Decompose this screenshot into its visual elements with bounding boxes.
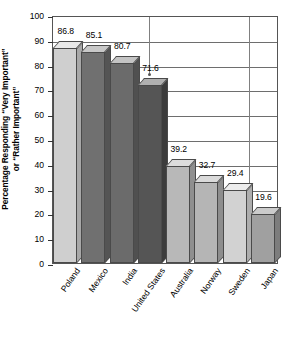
x-tick-label: Japan bbox=[258, 266, 280, 291]
bar-front-face bbox=[251, 214, 275, 263]
x-tick-label: Australia bbox=[168, 266, 195, 299]
y-tick-label: 90 bbox=[22, 36, 44, 46]
x-tick-label: Mexico bbox=[87, 266, 111, 294]
y-tick-label: 20 bbox=[22, 209, 44, 219]
x-tick-label: Sweden bbox=[226, 266, 252, 297]
y-tick-label: 70 bbox=[22, 85, 44, 95]
bar-front-face bbox=[138, 85, 162, 263]
bar-series: 86.885.180.771.639.232.729.419.6 bbox=[53, 17, 277, 263]
y-axis-title-line-1: Percentage Responding “Very Important” bbox=[0, 48, 10, 209]
plot-area: 86.885.180.771.639.232.729.419.6 bbox=[52, 16, 278, 264]
bar: 71.6 bbox=[138, 85, 162, 263]
y-axis-title-line-2: or “Rather Important” bbox=[11, 87, 21, 171]
y-tick-label: 100 bbox=[22, 11, 44, 21]
bar-value-label: 71.6 bbox=[142, 63, 159, 73]
bar: 80.7 bbox=[110, 63, 134, 263]
y-tick-label: 40 bbox=[22, 160, 44, 170]
bar: 85.1 bbox=[81, 52, 105, 263]
bar-value-label: 32.7 bbox=[199, 160, 216, 170]
x-tick-label: India bbox=[120, 266, 139, 287]
bar: 86.8 bbox=[53, 48, 77, 263]
bar-value-label: 80.7 bbox=[114, 41, 131, 51]
bar-value-label: 19.6 bbox=[255, 192, 272, 202]
bar-value-label: 86.8 bbox=[57, 26, 74, 36]
y-axis-title: Percentage Responding “Very Important” o… bbox=[0, 0, 21, 258]
y-tick-label: 80 bbox=[22, 61, 44, 71]
y-tick-label: 10 bbox=[22, 234, 44, 244]
bar: 29.4 bbox=[223, 190, 247, 263]
bar: 32.7 bbox=[194, 182, 218, 263]
bar-value-label: 39.2 bbox=[170, 144, 187, 154]
bar-front-face bbox=[81, 52, 105, 263]
x-tick-label: Norway bbox=[199, 266, 224, 296]
y-tick-label: 60 bbox=[22, 110, 44, 120]
bar-front-face bbox=[53, 48, 77, 263]
bar-chart: Percentage Responding “Very Important” o… bbox=[0, 0, 290, 337]
bar: 19.6 bbox=[251, 214, 275, 263]
y-tick-label: 50 bbox=[22, 135, 44, 145]
bar-front-face bbox=[194, 182, 218, 263]
bar: 39.2 bbox=[166, 166, 190, 263]
bar-value-label: 29.4 bbox=[227, 168, 244, 178]
bar-front-face bbox=[110, 63, 134, 263]
bar-front-face bbox=[223, 190, 247, 263]
bar-side-face bbox=[275, 208, 281, 263]
x-tick-label: Poland bbox=[59, 266, 83, 294]
bar-front-face bbox=[166, 166, 190, 263]
y-tick-label: 30 bbox=[22, 185, 44, 195]
y-axis-tick-labels: 0102030405060708090100 bbox=[22, 16, 44, 264]
bar-value-label: 85.1 bbox=[86, 30, 103, 40]
x-axis-category-labels: PolandMexicoIndiaUnited StatesAustraliaN… bbox=[52, 266, 278, 336]
y-tick-label: 0 bbox=[22, 259, 44, 269]
